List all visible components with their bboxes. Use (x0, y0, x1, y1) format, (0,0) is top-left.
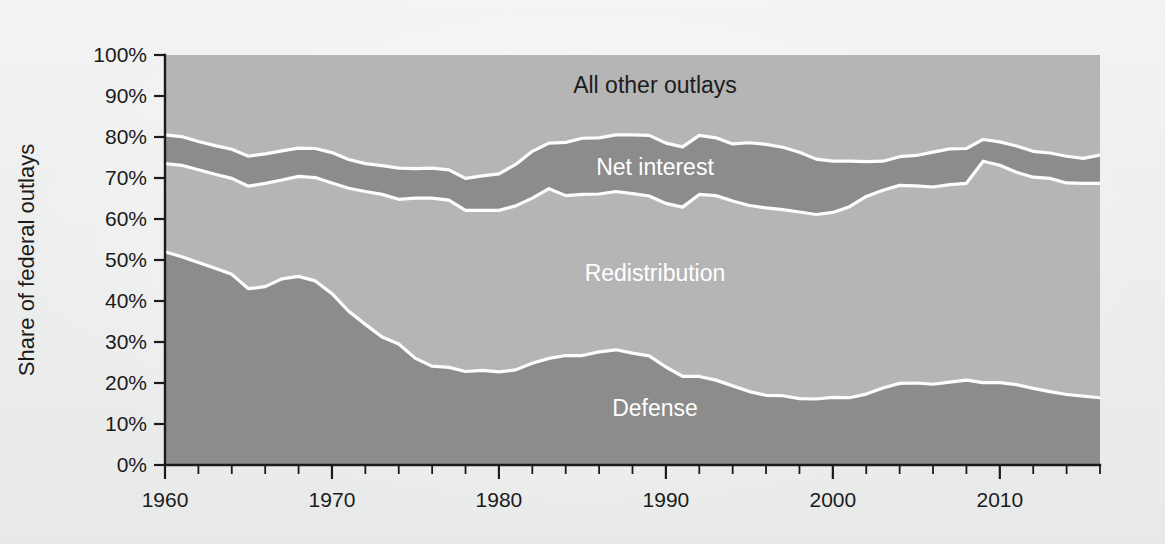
y-axis-tick-labels: 0%10%20%30%40%50%60%70%80%90%100% (93, 43, 147, 476)
y-axis-tick-label: 20% (105, 371, 147, 394)
y-axis-tick-label: 80% (105, 125, 147, 148)
x-axis-tick-label: 1960 (142, 488, 189, 511)
x-axis-tick-labels: 196019701980199020002010 (142, 488, 1024, 511)
y-axis-tick-label: 0% (117, 453, 147, 476)
x-axis-tick-label: 2000 (809, 488, 856, 511)
y-axis-tick-label: 10% (105, 412, 147, 435)
y-axis-ticks (154, 55, 165, 465)
y-axis-tick-label: 100% (93, 43, 147, 66)
y-axis-tick-label: 40% (105, 289, 147, 312)
series-label-defense: Defense (612, 395, 698, 421)
series-label-all-other-outlays: All other outlays (573, 72, 737, 98)
chart-figure: All other outlays Net interest Redistrib… (0, 0, 1165, 544)
series-label-redistribution: Redistribution (585, 260, 726, 286)
stacked-area-chart: All other outlays Net interest Redistrib… (0, 0, 1165, 544)
y-axis-tick-label: 50% (105, 248, 147, 271)
x-axis-ticks (165, 465, 1100, 479)
y-axis-tick-label: 60% (105, 207, 147, 230)
x-axis-tick-label: 1980 (476, 488, 523, 511)
x-axis-tick-label: 1990 (643, 488, 690, 511)
plot-area-wrapper: All other outlays Net interest Redistrib… (0, 0, 1165, 544)
y-axis-tick-label: 70% (105, 166, 147, 189)
y-axis-tick-label: 90% (105, 84, 147, 107)
series-label-net-interest: Net interest (596, 154, 714, 180)
y-axis-title: Share of federal outlays (14, 144, 39, 376)
x-axis-tick-label: 1970 (309, 488, 356, 511)
y-axis-tick-label: 30% (105, 330, 147, 353)
x-axis-tick-label: 2010 (976, 488, 1023, 511)
